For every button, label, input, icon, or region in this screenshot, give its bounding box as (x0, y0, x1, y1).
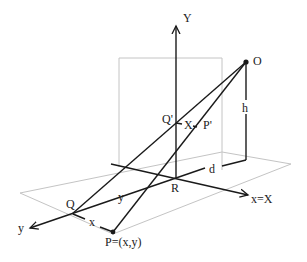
O-label: O (253, 54, 262, 68)
X-segment-left (176, 123, 182, 124)
x-axis (111, 164, 248, 195)
P-label: P=(x,y) (105, 235, 141, 249)
Y-axis-label: Y (183, 11, 192, 25)
X-segment-label: X (184, 118, 193, 132)
point-P (111, 230, 116, 235)
Q-label: Q (66, 197, 75, 211)
y-segment-label: y (118, 190, 124, 204)
ray-O-Q (72, 62, 246, 214)
x-segment-left (73, 214, 85, 219)
ray-O-P (113, 62, 246, 232)
x-axis-label: x=X (251, 192, 273, 206)
x-segment-label: x (89, 215, 95, 229)
y-axis-label: y (18, 221, 24, 235)
X-segment-right (193, 126, 197, 127)
perspective-diagram: Y x=X y d h O Q' X P' R y Q x P=(x,y) (0, 0, 307, 262)
y-axis (30, 178, 176, 228)
d-label: d (209, 162, 215, 176)
d-segment (222, 160, 246, 166)
Q-prime-label: Q' (162, 112, 173, 126)
P-prime-label: P' (203, 118, 212, 132)
R-label: R (171, 181, 179, 195)
h-label: h (242, 101, 248, 115)
y-axis-back (176, 168, 205, 178)
